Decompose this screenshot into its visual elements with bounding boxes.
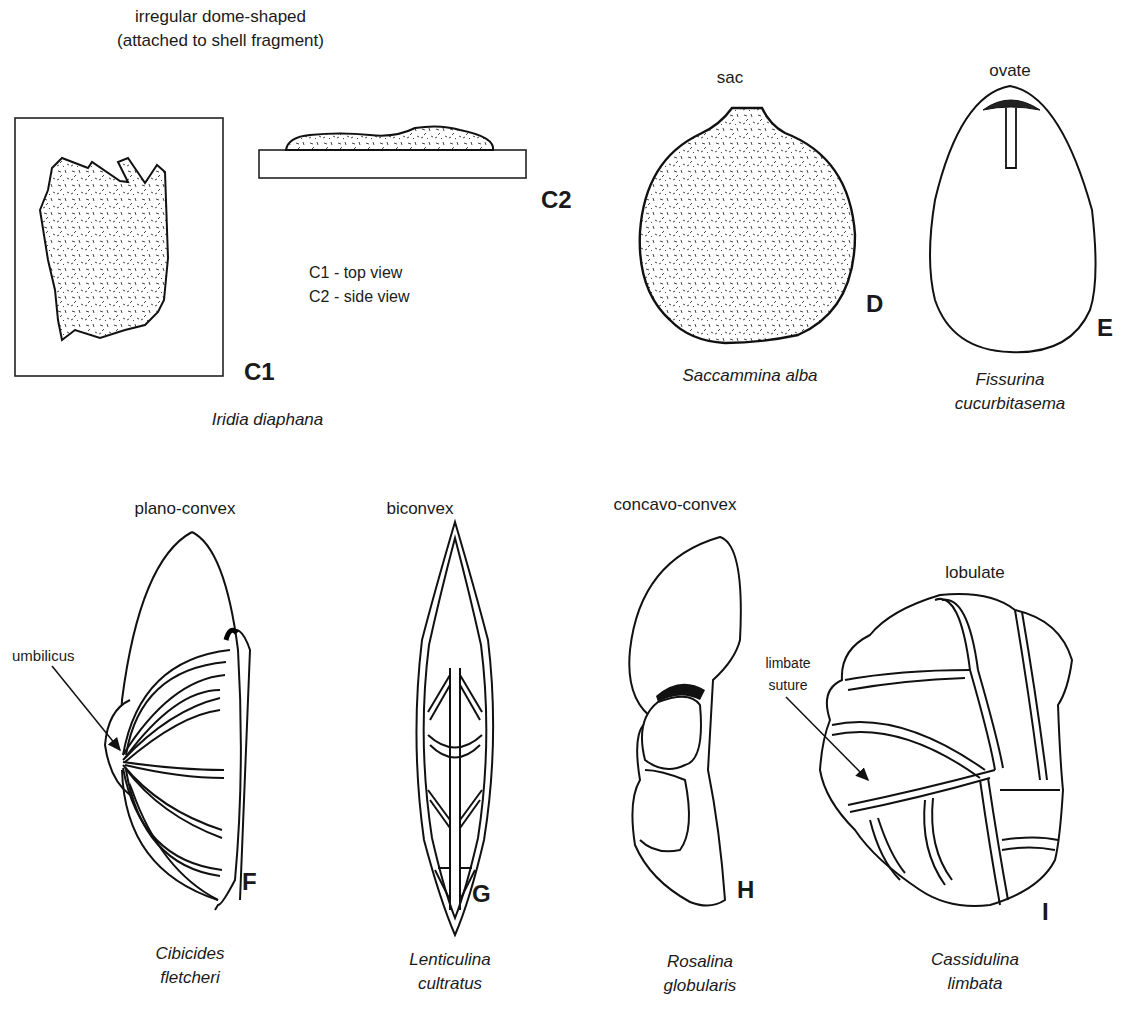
figure-g-biconvex	[416, 522, 493, 935]
figure-g-shape-label: biconvex	[380, 498, 460, 519]
figure-h-concavo-convex	[629, 537, 741, 906]
figure-i-letter: I	[1042, 898, 1049, 926]
figure-h-shape-label: concavo-convex	[610, 494, 740, 515]
figure-f-species-line1: Cibicides	[140, 942, 240, 966]
figure-e-ovate	[930, 86, 1096, 352]
figure-c-view-note-1: C1 - top view	[309, 262, 402, 284]
figure-e-species-line1: Fissurina	[945, 368, 1075, 392]
figure-h-species-line2: globularis	[650, 974, 750, 998]
figure-i-annotation-line1: limbate	[748, 652, 828, 674]
figure-f-plano-convex	[52, 532, 250, 910]
figure-i-species-line2: limbata	[920, 972, 1030, 996]
figure-d-sac	[640, 108, 855, 343]
figure-c-shape-note: (attached to shell fragment)	[88, 30, 353, 51]
figure-h-species-line1: Rosalina	[650, 950, 750, 974]
figure-f-species-line2: fletcheri	[140, 966, 240, 990]
figure-g-species-line2: cultratus	[395, 972, 505, 996]
figure-e-species-line2: cucurbitasema	[945, 392, 1075, 416]
figure-c2-side-view	[259, 126, 526, 178]
figure-i-shape-label: lobulate	[935, 562, 1015, 583]
figure-g-letter: G	[472, 880, 491, 908]
figure-d-letter: D	[866, 290, 883, 318]
figure-c2-letter: C2	[541, 186, 572, 214]
figure-h-letter: H	[737, 876, 754, 904]
figure-c1-top-view	[15, 118, 223, 376]
figure-e-letter: E	[1097, 314, 1113, 342]
figure-f-annotation: umbilicus	[12, 645, 75, 667]
figure-c-species: Iridia diaphana	[190, 408, 345, 432]
figure-i-annotation-line2: suture	[748, 674, 828, 696]
figure-c-shape-label: irregular dome-shaped	[88, 6, 353, 27]
figure-f-letter: F	[242, 868, 257, 896]
figure-i-species-line1: Cassidulina	[920, 948, 1030, 972]
figure-d-shape-label: sac	[700, 67, 760, 88]
figure-d-species: Saccammina alba	[660, 364, 840, 388]
figure-c-view-note-2: C2 - side view	[309, 286, 409, 308]
figure-g-species-line1: Lenticulina	[395, 948, 505, 972]
figure-i-lobulate	[786, 594, 1072, 906]
figure-e-shape-label: ovate	[975, 60, 1045, 81]
figure-f-shape-label: plano-convex	[120, 498, 250, 519]
figure-c1-letter: C1	[244, 358, 275, 386]
